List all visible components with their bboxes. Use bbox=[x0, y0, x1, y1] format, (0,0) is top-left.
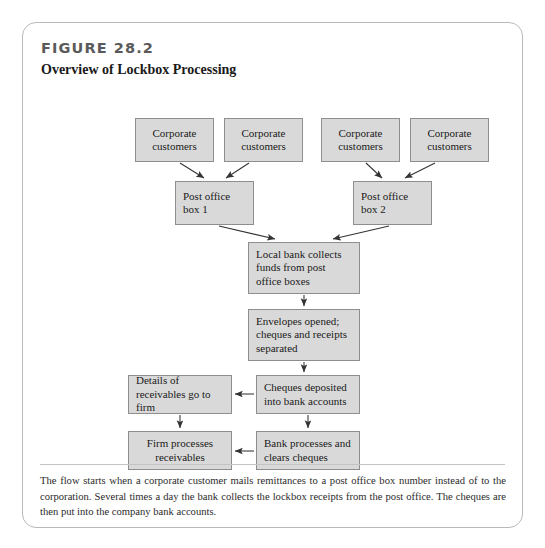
node-corporate-customers-1: Corporate customers bbox=[135, 118, 214, 162]
node-label: Corporate customers bbox=[418, 127, 481, 154]
node-label: Post office box 2 bbox=[361, 190, 424, 217]
figure-caption: The flow starts when a corporate custome… bbox=[40, 473, 506, 520]
node-label: Local bank collects funds from post offi… bbox=[256, 248, 352, 289]
node-envelopes-opened: Envelopes opened; cheques and receipts s… bbox=[248, 309, 360, 361]
node-label: Corporate customers bbox=[232, 127, 295, 154]
node-label: Corporate customers bbox=[143, 127, 206, 154]
node-details-of-receivables: Details of receivables go to firm bbox=[128, 375, 232, 414]
figure-card: FIGURE 28.2 Overview of Lockbox Processi… bbox=[22, 22, 523, 528]
caption-divider bbox=[40, 464, 505, 465]
node-corporate-customers-3: Corporate customers bbox=[321, 118, 400, 162]
node-label: Cheques deposited into bank accounts bbox=[264, 381, 352, 408]
node-local-bank-collects-funds: Local bank collects funds from post offi… bbox=[248, 242, 360, 294]
node-corporate-customers-2: Corporate customers bbox=[224, 118, 303, 162]
node-label: Post office box 1 bbox=[183, 190, 246, 217]
node-label: Details of receivables go to firm bbox=[136, 374, 224, 415]
node-label: Corporate customers bbox=[329, 127, 392, 154]
node-post-office-box-2: Post office box 2 bbox=[353, 181, 432, 225]
lockbox-flow-diagram: Corporate customers Corporate customers … bbox=[23, 23, 522, 461]
node-cheques-deposited: Cheques deposited into bank accounts bbox=[256, 375, 360, 414]
node-label: Envelopes opened; cheques and receipts s… bbox=[256, 315, 352, 356]
node-label: Bank processes and clears cheques bbox=[264, 437, 352, 464]
node-post-office-box-1: Post office box 1 bbox=[175, 181, 254, 225]
node-corporate-customers-4: Corporate customers bbox=[410, 118, 489, 162]
node-label: Firm processes receivables bbox=[136, 437, 224, 464]
